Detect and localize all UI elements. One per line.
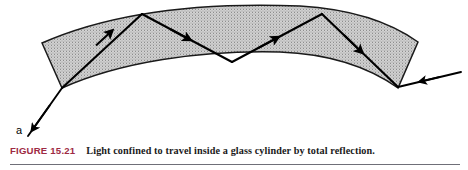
figure-container: a FIGURE 15.21Light confined to travel i… bbox=[0, 0, 468, 170]
outgoing-ray bbox=[398, 72, 461, 87]
entry-point-label: a bbox=[16, 124, 23, 136]
incoming-ray-arrow bbox=[32, 105, 50, 130]
figure-number-label: FIGURE 15.21 bbox=[10, 145, 75, 156]
incoming-ray bbox=[28, 88, 62, 136]
glass-cylinder-band bbox=[42, 5, 418, 88]
diagram-area: a bbox=[0, 0, 468, 142]
figure-caption-block: FIGURE 15.21Light confined to travel ins… bbox=[0, 142, 468, 170]
outgoing-ray-arrow bbox=[420, 77, 440, 82]
band-fill bbox=[42, 5, 418, 88]
caption-divider bbox=[10, 164, 460, 165]
figure-caption: FIGURE 15.21Light confined to travel ins… bbox=[10, 145, 460, 156]
figure-caption-text: Light confined to travel inside a glass … bbox=[86, 145, 375, 156]
light-ray-diagram: a bbox=[0, 0, 468, 142]
